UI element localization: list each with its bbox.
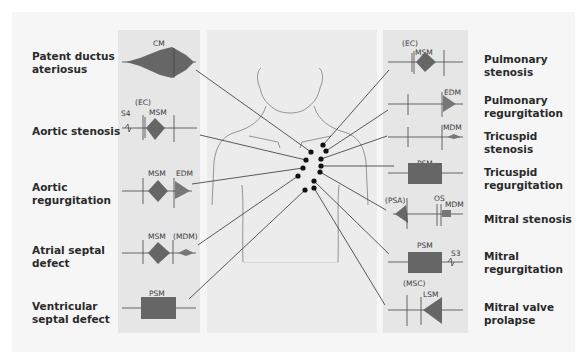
- auscultation-dots: [295, 142, 328, 192]
- waveforms: [122, 47, 463, 326]
- torso-outline: [212, 68, 368, 262]
- diagram-graphics: [0, 0, 588, 361]
- connector-lines: [189, 70, 394, 305]
- torso-bottom: [243, 262, 338, 263]
